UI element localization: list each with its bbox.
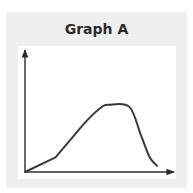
data-line	[25, 104, 157, 172]
line-chart	[0, 0, 193, 193]
